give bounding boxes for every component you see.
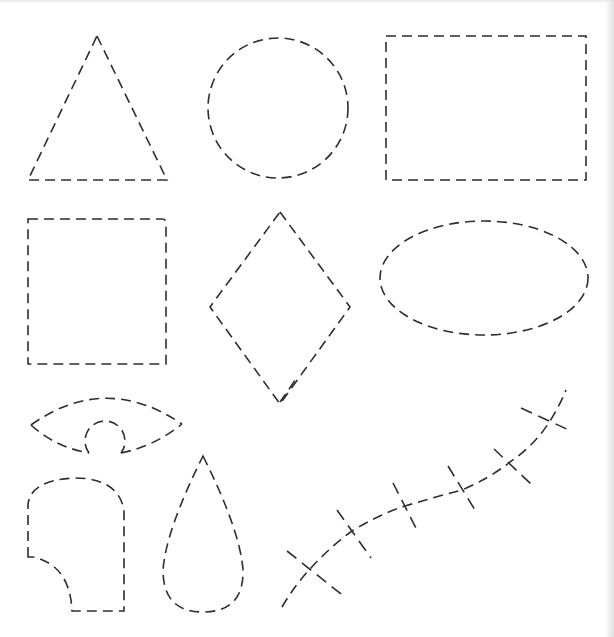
oval-shape: Oval (380, 221, 588, 335)
triangle-shape: Triangle (28, 36, 167, 180)
stitch-mark (448, 466, 475, 510)
circle-shape: Circle (208, 38, 348, 178)
worksheet-page: Dashed cut-out shapes worksheet Triangle… (0, 0, 614, 637)
stitched-curve-shape: Stitched curve (282, 390, 571, 607)
diamond-shape: Diamond (210, 212, 350, 404)
shapes-canvas: Dashed cut-out shapes worksheet Triangle… (0, 0, 614, 637)
square-shape: Square (28, 219, 166, 364)
eye-shape: Eye (31, 398, 182, 453)
curve-fragment (280, 380, 295, 402)
stitch-mark (494, 449, 531, 484)
stitch-mark (337, 510, 371, 558)
teardrop-shape: Teardrop (163, 456, 243, 612)
stitch-mark (393, 483, 418, 532)
rectangle-shape: Rectangle (386, 36, 586, 180)
rounded-notch-shape: Rounded shape with notch (28, 478, 124, 611)
